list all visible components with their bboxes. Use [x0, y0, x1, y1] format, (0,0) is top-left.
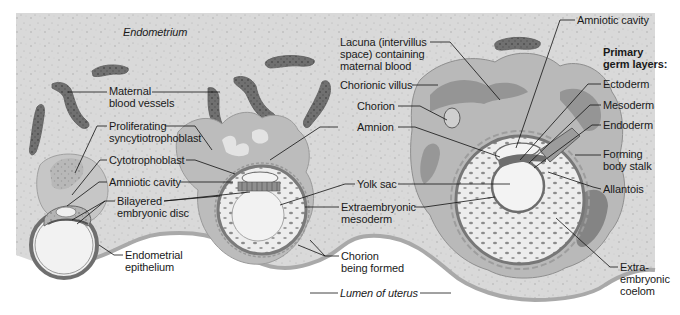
label-extra-embryonic-coelom: Extra- embryonic coelom — [620, 261, 670, 297]
label-lacuna: Lacuna (intervillus space) containing ma… — [340, 36, 427, 72]
label-proliferating-syncytiotrophoblast: Proliferating syncytiotrophoblast — [109, 120, 201, 144]
label-primary-germ-layers: Primary germ layers: — [603, 46, 667, 70]
label-bilayered-embryonic-disc: Bilayered embryonic disc — [117, 195, 189, 219]
label-extraembryonic-mesoderm: Extraembryonic mesoderm — [341, 201, 416, 225]
label-amniotic-cavity-early: Amniotic cavity — [109, 176, 181, 188]
implantation-diagram: Endometrium Lumen of uterus Maternal blo… — [0, 0, 680, 315]
label-allantois: Allantois — [603, 183, 644, 195]
label-forming-body-stalk: Forming body stalk — [603, 148, 652, 172]
label-yolk-sac: Yolk sac — [357, 178, 397, 190]
label-chorion: Chorion — [357, 100, 395, 112]
label-amniotic-cavity-late: Amniotic cavity — [577, 14, 649, 26]
region-label-endometrium: Endometrium — [123, 26, 187, 38]
label-maternal-blood-vessels: Maternal blood vessels — [109, 85, 174, 109]
label-chorion-being-formed: Chorion being formed — [341, 250, 404, 274]
label-mesoderm: Mesoderm — [603, 99, 654, 111]
region-label-lumen-of-uterus: Lumen of uterus — [340, 287, 418, 299]
label-chorionic-villus: Chorionic villus — [340, 79, 412, 91]
label-endometrial-epithelium: Endometrial epithelium — [125, 249, 183, 273]
label-ectoderm: Ectoderm — [603, 78, 649, 90]
label-cytotrophoblast: Cytotrophoblast — [109, 154, 185, 166]
label-endoderm: Endoderm — [603, 119, 653, 131]
label-amnion: Amnion — [357, 121, 394, 133]
